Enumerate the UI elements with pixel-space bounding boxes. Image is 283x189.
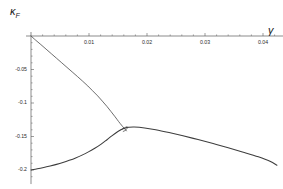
chart-plot-area <box>0 0 283 189</box>
x-tick-label: 0.04 <box>258 40 268 45</box>
y-axis-label: κF <box>10 6 20 19</box>
y-tick-label: -0.2 <box>8 167 27 172</box>
x-tick-label: 0.03 <box>200 40 210 45</box>
curve-upper-branch <box>31 36 126 131</box>
tick-marks-group <box>31 33 275 177</box>
x-tick-label: 0.01 <box>84 40 94 45</box>
y-axis-label-subscript: F <box>16 12 20 19</box>
curve-lower-branch-rising <box>31 127 128 170</box>
figure-canvas: κF γ 0.010.020.030.04 -0.05-0.1-0.15-0.2 <box>0 0 283 189</box>
x-tick-label: 0.02 <box>142 40 152 45</box>
y-tick-label: -0.15 <box>8 134 27 139</box>
curve-lower-branch-falling <box>128 127 277 165</box>
x-axis-label: γ <box>268 25 274 36</box>
y-tick-label: -0.05 <box>8 67 27 72</box>
y-tick-label: -0.1 <box>8 100 27 105</box>
axes-group <box>26 32 283 184</box>
data-curves-group <box>31 36 277 170</box>
